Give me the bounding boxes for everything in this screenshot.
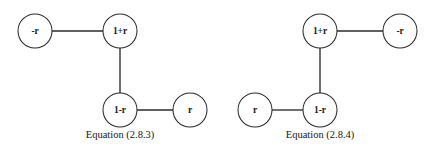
node-label: 1+r	[313, 26, 328, 36]
node-right-top-one-plus-r: 1+r	[303, 14, 337, 48]
node-left-bottom-one-minus-r: 1-r	[103, 93, 137, 127]
node-label: 1+r	[113, 26, 128, 36]
node-right-top-minus-r: -r	[383, 14, 417, 48]
figure-root: -r 1+r 1-r r Equation (2.8.3)	[0, 0, 444, 151]
node-label: 1-r	[114, 105, 127, 115]
caption-equation-2-8-4: Equation (2.8.4)	[286, 129, 355, 141]
node-label: -r	[31, 26, 39, 36]
node-left-bottom-r: r	[173, 93, 207, 127]
caption-equation-2-8-3: Equation (2.8.3)	[86, 129, 155, 141]
graph-diagram-canvas: -r 1+r 1-r r Equation (2.8.3)	[0, 0, 444, 151]
node-right-bottom-r: r	[238, 93, 272, 127]
node-left-top-one-plus-r: 1+r	[103, 14, 137, 48]
diagram-equation-2-8-3: -r 1+r 1-r r Equation (2.8.3)	[18, 14, 207, 141]
node-left-top-minus-r: -r	[18, 14, 52, 48]
node-right-bottom-one-minus-r: 1-r	[303, 93, 337, 127]
node-label: -r	[396, 26, 404, 36]
diagram-equation-2-8-4: 1+r -r r 1-r Equation (2.8.4)	[238, 14, 417, 141]
node-label: 1-r	[314, 105, 327, 115]
